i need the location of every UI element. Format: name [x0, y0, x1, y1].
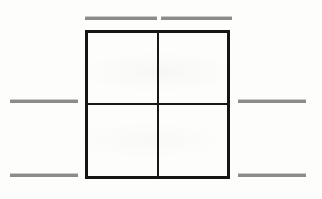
horizontal-divider-line [85, 103, 230, 105]
top-right-rule-segment [161, 17, 232, 20]
diagram-canvas [0, 0, 322, 199]
bottom-left-rule-segment [10, 174, 78, 177]
bottom-right-rule-segment [238, 174, 306, 177]
top-left-rule-segment [85, 17, 157, 20]
mid-right-rule-segment [238, 100, 306, 103]
mid-left-rule-segment [10, 100, 78, 103]
